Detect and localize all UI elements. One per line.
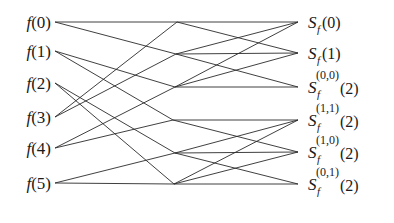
svg-text:f: f (317, 121, 322, 133)
edge-stage1-f1-m3 (55, 51, 173, 120)
svg-text:S: S (308, 44, 317, 63)
butterfly-diagram: f(0)f(1)f(2)f(3)f(4)f(5) Sf(0)Sf(1)Sf(0,… (0, 0, 394, 223)
svg-text:(1): (1) (322, 45, 341, 63)
svg-text:f: f (317, 153, 322, 165)
output-label-s4: Sf(1,0)(2) (308, 133, 359, 165)
input-labels: f(0)f(1)f(2)f(3)f(4)f(5) (26, 13, 51, 193)
output-label-s0: Sf(0) (308, 13, 341, 35)
input-label-f2: f(2) (26, 74, 51, 93)
output-label-s3: Sf(1,1)(2) (308, 101, 359, 133)
input-label-f4: f(4) (26, 139, 51, 158)
input-label-f0: f(0) (26, 13, 51, 32)
svg-text:f: f (317, 88, 322, 100)
edge-stage1-f4-m2 (55, 87, 175, 148)
edges-group (55, 22, 298, 184)
input-label-f5: f(5) (26, 174, 51, 193)
input-label-f3: f(3) (26, 108, 51, 127)
input-label-f1: f(1) (26, 42, 51, 61)
edge-stage1-f5-m4 (55, 153, 175, 183)
svg-text:(2): (2) (340, 145, 359, 163)
edge-stage1-f0-m1 (55, 22, 176, 54)
edge-stage2-m2-s0 (175, 22, 298, 87)
svg-text:(2): (2) (340, 80, 359, 98)
svg-text:(1,0): (1,0) (316, 133, 339, 147)
svg-text:(1,1): (1,1) (316, 101, 339, 115)
output-label-s5: Sf(0,1)(2) (308, 165, 359, 197)
edge-stage1-f3-m0 (55, 22, 177, 117)
svg-text:(0,1): (0,1) (316, 165, 339, 179)
svg-text:(0): (0) (322, 14, 341, 32)
edge-stage1-f1-m2 (55, 51, 175, 87)
output-label-s1: Sf(1) (308, 44, 341, 66)
svg-text:(2): (2) (340, 113, 359, 131)
svg-text:(0,0): (0,0) (316, 68, 339, 82)
svg-text:S: S (308, 13, 317, 32)
svg-text:f: f (317, 185, 322, 197)
output-labels: Sf(0)Sf(1)Sf(0,0)(2)Sf(1,1)(2)Sf(1,0)(2)… (308, 13, 359, 197)
output-label-s2: Sf(0,0)(2) (308, 68, 359, 100)
edge-stage1-f4-m3 (55, 120, 173, 148)
svg-text:(2): (2) (340, 177, 359, 195)
edge-stage1-f3-m1 (55, 54, 176, 117)
edge-stage1-f5-m5 (55, 183, 174, 184)
